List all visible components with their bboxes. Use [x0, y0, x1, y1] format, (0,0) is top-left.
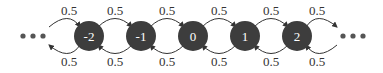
state-node: -2: [74, 21, 104, 51]
state-node: -1: [126, 21, 156, 51]
backward-probability-label: 0.5: [263, 54, 279, 69]
backward-arrow: [49, 45, 80, 54]
state-node: 2: [282, 21, 312, 51]
forward-arrow: [98, 19, 132, 28]
state-label: 0: [190, 29, 197, 44]
backward-probability-label: 0.5: [159, 54, 175, 69]
backward-probability-label: 0.5: [309, 54, 325, 69]
forward-probability-label: 0.5: [61, 3, 77, 18]
forward-arrow: [49, 19, 80, 28]
state-nodes: -2-1012: [74, 21, 312, 51]
markov-chain-diagram: -2-1012 0.50.50.50.50.50.50.50.50.50.50.…: [0, 0, 383, 73]
backward-probability-label: 0.5: [211, 54, 227, 69]
state-label: -2: [84, 29, 95, 44]
state-label: 1: [242, 29, 249, 44]
backward-probability-label: 0.5: [107, 54, 123, 69]
state-label: 2: [294, 29, 301, 44]
backward-arrow: [306, 45, 337, 54]
state-node: 1: [230, 21, 260, 51]
ellipsis-right: [340, 33, 365, 38]
backward-arrow: [202, 45, 236, 54]
forward-arrow: [254, 19, 288, 28]
state-node: 0: [178, 21, 208, 51]
forward-arrow: [150, 19, 184, 28]
backward-arrow: [254, 45, 288, 54]
forward-probability-label: 0.5: [309, 3, 325, 18]
forward-arrow: [202, 19, 236, 28]
ellipsis-left: [20, 33, 45, 38]
forward-probability-label: 0.5: [107, 3, 123, 18]
state-label: -1: [136, 29, 147, 44]
forward-probability-label: 0.5: [263, 3, 279, 18]
backward-probability-label: 0.5: [61, 54, 77, 69]
backward-arrow: [150, 45, 184, 54]
backward-arrow: [98, 45, 132, 54]
forward-probability-label: 0.5: [159, 3, 175, 18]
forward-arrow: [306, 19, 337, 28]
forward-probability-label: 0.5: [211, 3, 227, 18]
